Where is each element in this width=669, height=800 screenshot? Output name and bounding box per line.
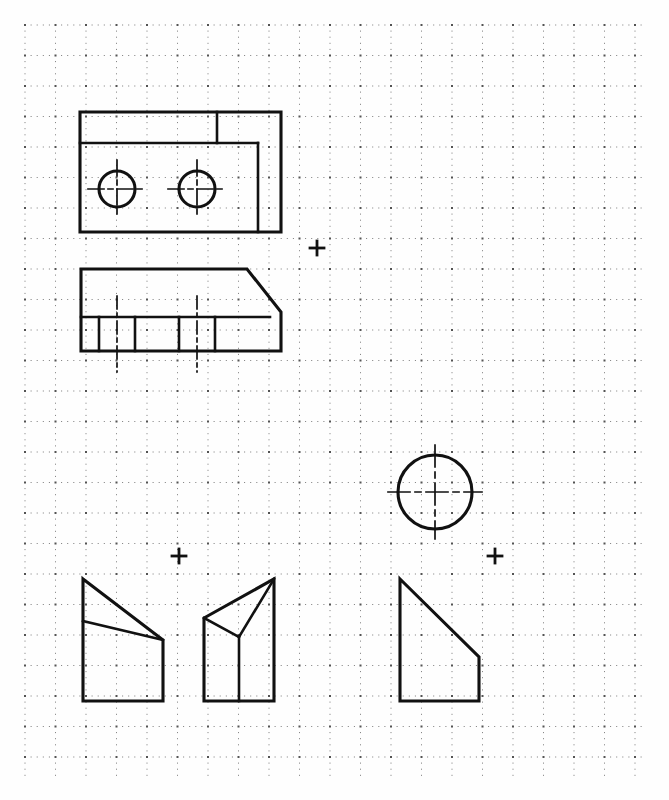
drawing-sheet bbox=[0, 0, 669, 800]
grid-layer bbox=[0, 0, 669, 800]
